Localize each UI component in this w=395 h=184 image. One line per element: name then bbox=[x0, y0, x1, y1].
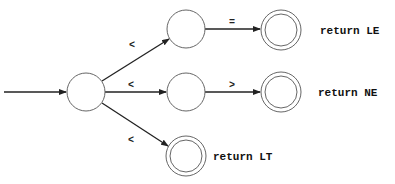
state-s2 bbox=[167, 73, 205, 111]
accepting-state-ne bbox=[261, 72, 301, 112]
accepting-state-lt bbox=[166, 136, 206, 176]
automaton-diagram: < < < = > return LE return NE return LT bbox=[0, 0, 395, 184]
action-label-lt: return LT bbox=[213, 151, 273, 163]
edge-label-s2-s4: > bbox=[229, 80, 235, 91]
state-start bbox=[67, 73, 105, 111]
edge-s0-s5 bbox=[102, 103, 168, 146]
action-label-le: return LE bbox=[320, 25, 380, 37]
edge-label-s0-s1: < bbox=[129, 40, 135, 51]
edge-label-s0-s2: < bbox=[128, 80, 134, 91]
diagram-svg: < < < = > return LE return NE return LT bbox=[0, 0, 395, 184]
action-label-ne: return NE bbox=[318, 87, 378, 99]
accepting-state-le bbox=[261, 10, 301, 50]
state-s1 bbox=[167, 10, 205, 48]
edge-s0-s1 bbox=[102, 39, 169, 81]
edge-label-s0-s5: < bbox=[128, 135, 134, 146]
edge-label-s1-s3: = bbox=[229, 17, 235, 28]
